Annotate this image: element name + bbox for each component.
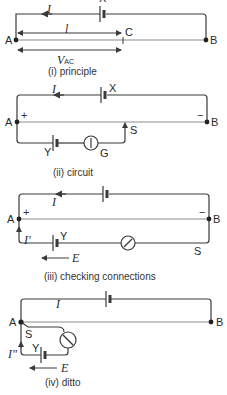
voltage-label: VAC xyxy=(57,54,74,66)
driver-wire-left xyxy=(21,299,106,322)
point-a-label: A xyxy=(9,317,16,328)
slider-label: S xyxy=(130,125,137,136)
current-label: I xyxy=(56,298,60,310)
driver-wire-left xyxy=(19,194,103,219)
caption-iv: (iv) ditto xyxy=(45,378,81,388)
potentiometer-diagram xyxy=(0,0,227,395)
driver-wire-left xyxy=(16,14,100,40)
node-b xyxy=(205,120,210,125)
galvanometer-needle xyxy=(63,335,73,345)
cell-y-label: Y xyxy=(60,231,67,242)
point-a-label: A xyxy=(5,35,12,46)
driver-wire-left xyxy=(17,95,101,122)
galvanometer-label: G xyxy=(100,148,109,159)
panel-iv-ditto xyxy=(18,291,213,368)
current-label: I xyxy=(47,3,51,15)
node-a xyxy=(17,217,22,222)
galv-loop-right xyxy=(135,219,209,243)
cell-y-label: Y xyxy=(44,147,51,158)
length-label: l xyxy=(65,23,68,35)
cell-x-label: X xyxy=(99,0,106,4)
panel-iii-checking xyxy=(17,186,212,258)
driver-wire-right xyxy=(106,14,206,40)
driver-wire-right xyxy=(110,299,211,322)
plus-sign: + xyxy=(21,110,27,121)
current-label: I xyxy=(52,83,56,95)
cell-y-label: Y xyxy=(32,343,39,354)
point-b-label: B xyxy=(211,117,218,128)
point-c-label: C xyxy=(125,27,133,38)
branch-current-label: I' xyxy=(24,234,31,246)
emf-label: E xyxy=(72,252,79,264)
node-a xyxy=(14,38,19,43)
point-b-label: B xyxy=(210,35,217,46)
galv-loop-right xyxy=(45,348,68,355)
cell-x-label: X xyxy=(109,83,116,94)
node-b xyxy=(209,320,214,325)
slider-label: S xyxy=(194,246,201,257)
emf-label: E xyxy=(61,362,68,374)
node-a xyxy=(15,120,20,125)
point-a-label: A xyxy=(7,214,14,225)
caption-ii: (ii) circuit xyxy=(53,168,93,178)
branch-current-label: I" xyxy=(8,348,17,360)
caption-iii: (iii) checking connections xyxy=(44,272,156,282)
panel-ii-circuit xyxy=(15,87,210,151)
driver-wire-right xyxy=(107,95,207,122)
plus-sign: + xyxy=(23,207,29,218)
driver-wire-right xyxy=(109,194,209,219)
slider-label: S xyxy=(25,329,32,340)
galvanometer-needle xyxy=(124,239,132,247)
voltage-subscript: AC xyxy=(64,58,74,65)
caption-i: (i) principle xyxy=(48,67,97,77)
point-a-label: A xyxy=(5,117,12,128)
minus-sign: − xyxy=(199,207,205,218)
galv-loop-left xyxy=(17,122,53,143)
current-label: I xyxy=(52,196,56,208)
node-a xyxy=(18,319,23,324)
node-b xyxy=(207,217,212,222)
panel-i-principle xyxy=(14,6,209,50)
galv-loop-right xyxy=(98,126,125,143)
node-b xyxy=(204,38,209,43)
point-b-label: B xyxy=(216,317,223,328)
point-b-label: B xyxy=(213,214,220,225)
minus-sign: − xyxy=(197,110,203,121)
